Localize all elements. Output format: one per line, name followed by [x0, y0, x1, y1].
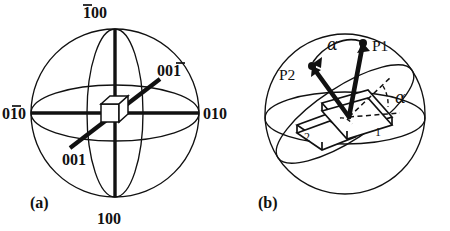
label-p1: P1	[372, 37, 388, 54]
label-top-a-text: 100	[83, 4, 107, 21]
label-left-a-first: 0	[2, 105, 10, 122]
cube-front-face	[101, 104, 119, 122]
label-plane-1: 1	[375, 125, 381, 139]
figure-root: 100 100 010 010 001	[0, 0, 450, 231]
label-diag-ur-lead: 00	[157, 62, 173, 79]
label-alpha-plane: α	[395, 88, 406, 107]
pole-dot-p1	[359, 39, 367, 47]
caption-a: (a)	[30, 194, 49, 212]
label-bottom-a: 100	[97, 210, 121, 227]
label-left-a-rest: 0	[18, 105, 26, 122]
panel-a: 100 100 010 010 001	[2, 4, 227, 227]
label-top-a-bar-digit: 1	[83, 4, 91, 21]
label-left-a-bar-digit: 1	[10, 105, 18, 122]
label-diag-ur-text: 001	[157, 62, 181, 79]
caption-b: (b)	[258, 194, 278, 212]
panel-b: P1 P2 α α 1 2 (b)	[258, 34, 427, 212]
label-alpha-arc: α	[327, 35, 338, 54]
label-plane-2: 2	[304, 130, 310, 144]
label-p2: P2	[279, 66, 295, 83]
label-left-a-text: 010	[2, 105, 26, 122]
label-diag-ur-bar-digit: 1	[173, 62, 181, 79]
unit-cube	[101, 96, 128, 122]
label-left-a: 010	[2, 105, 26, 122]
crystallography-figure: 100 100 010 010 001	[0, 0, 450, 231]
label-right-a: 010	[203, 105, 227, 122]
label-top-a-rest: 00	[91, 4, 107, 21]
label-top-a: 100	[83, 4, 107, 21]
label-diag-lower-left-a: 001	[62, 151, 86, 168]
label-diag-upper-right-a: 001	[157, 62, 185, 79]
